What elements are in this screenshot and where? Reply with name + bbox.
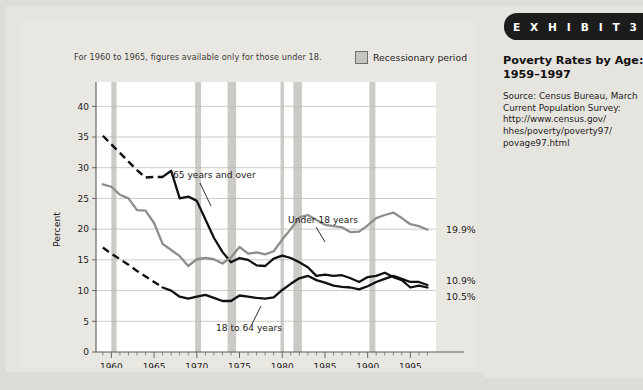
ytick-label-35: 35 — [78, 132, 89, 142]
ytick-label-5: 5 — [83, 317, 89, 327]
end-label-65-and-over: 10.9% — [446, 275, 476, 286]
xtick-label-1985: 1985 — [313, 362, 336, 369]
exhibit-banner: E X H I B I T 3 — [504, 13, 643, 40]
xtick-label-1980: 1980 — [271, 362, 294, 369]
xtick-label-1960: 1960 — [100, 362, 123, 369]
exhibit-source-text: Source: Census Bureau, March Current Pop… — [503, 91, 637, 148]
ytick-label-15: 15 — [78, 255, 89, 265]
xtick-label-1995: 1995 — [399, 362, 422, 369]
recession-band-2 — [195, 82, 201, 352]
exhibit-title-line-1: Poverty Rates by Age: — [503, 54, 643, 68]
recession-band-6 — [369, 82, 375, 352]
ytick-label-30: 30 — [78, 163, 90, 173]
ytick-label-40: 40 — [78, 102, 90, 112]
recession-band-1 — [111, 82, 116, 352]
xtick-label-1970: 1970 — [185, 362, 208, 369]
poverty-rate-line-chart: 0510152025303540196019651970197519801985… — [20, 20, 476, 368]
recession-band-3 — [228, 82, 237, 352]
ytick-label-10: 10 — [78, 286, 90, 296]
annotation-18-to-64: 18 to 64 years — [216, 323, 282, 333]
exhibit-source: Source: Census Bureau, March Current Pop… — [503, 91, 643, 149]
exhibit-title-line-2: 1959–1997 — [503, 68, 643, 82]
end-label-under-18: 19.9% — [446, 224, 476, 235]
ytick-label-20: 20 — [78, 224, 90, 234]
end-label-18-to-64: 10.5% — [446, 291, 476, 302]
plot-area: 0510152025303540196019651970197519801985… — [20, 20, 476, 368]
chart-panel: For 1960 to 1965, figures available only… — [20, 20, 476, 368]
plot-background — [96, 82, 436, 352]
xtick-label-1990: 1990 — [356, 362, 379, 369]
xtick-label-1965: 1965 — [143, 362, 166, 369]
annotation-65-and-over: 65 years and over — [173, 170, 256, 180]
xtick-label-1975: 1975 — [228, 362, 251, 369]
y-axis-title: Percent — [51, 212, 62, 247]
exhibit-card: For 1960 to 1965, figures available only… — [6, 6, 637, 372]
annotation-under-18: Under 18 years — [288, 215, 358, 225]
page-background: For 1960 to 1965, figures available only… — [0, 0, 643, 390]
ytick-label-0: 0 — [83, 347, 89, 357]
exhibit-title: Poverty Rates by Age: 1959–1997 — [503, 54, 643, 82]
exhibit-banner-label: E X H I B I T 3 — [513, 21, 640, 33]
recession-band-4 — [281, 82, 284, 352]
ytick-label-25: 25 — [78, 194, 89, 204]
